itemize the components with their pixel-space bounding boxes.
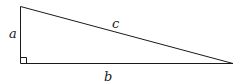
label-b: b [104, 69, 112, 83]
right-angle-marker [21, 58, 27, 64]
triangle-outline [21, 7, 234, 64]
label-a: a [9, 26, 17, 41]
right-triangle-diagram: a c b [0, 0, 245, 83]
label-c: c [112, 16, 120, 31]
